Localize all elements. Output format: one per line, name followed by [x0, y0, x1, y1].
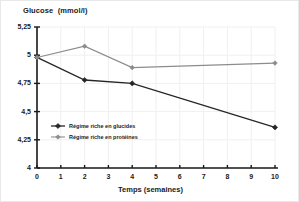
y-tick-label: 5	[5, 51, 31, 58]
y-tick-label: 4,5	[5, 108, 31, 115]
x-tick-label: 10	[267, 173, 283, 180]
axis-lines	[37, 27, 278, 168]
y-tick-label: 4	[5, 164, 31, 171]
chart-figure: Glucose (mmol/l) 44,254,54,7555,25 01234…	[0, 0, 299, 202]
x-tick-label: 0	[29, 173, 45, 180]
x-tick-label: 5	[148, 173, 164, 180]
x-axis-title: Temps (semaines)	[1, 185, 299, 194]
x-tick-label: 8	[219, 173, 235, 180]
x-tick-label: 9	[243, 173, 259, 180]
y-tick-label: 4,25	[5, 136, 31, 143]
x-tick-label: 1	[53, 173, 69, 180]
chart-canvas	[1, 1, 299, 202]
x-tick-label: 2	[77, 173, 93, 180]
legend-item-label: Régime riche en glucides	[69, 123, 135, 129]
y-tick-label: 4,75	[5, 79, 31, 86]
x-tick-label: 3	[100, 173, 116, 180]
x-tick-label: 4	[124, 173, 140, 180]
x-tick-label: 7	[196, 173, 212, 180]
y-tick-label: 5,25	[5, 23, 31, 30]
legend-item-label: Régime riche en protéines	[69, 134, 138, 140]
x-tick-label: 6	[172, 173, 188, 180]
gridlines	[37, 27, 275, 168]
legend-markers	[51, 123, 65, 139]
